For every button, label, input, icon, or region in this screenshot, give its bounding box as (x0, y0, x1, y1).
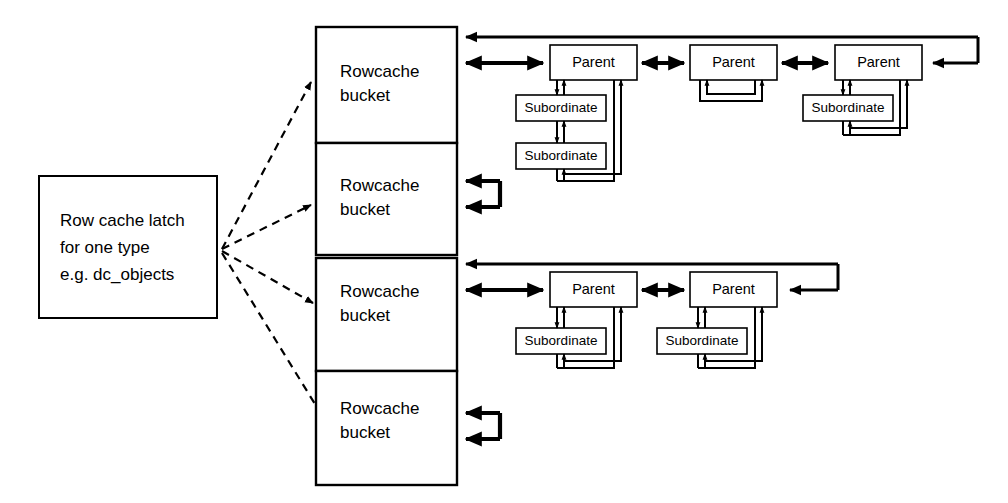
chain-top-parent-2[interactable]: Parent (690, 45, 777, 80)
bucket-1[interactable]: Rowcache bucket (316, 27, 457, 143)
latch-to-bucket-links (222, 82, 323, 417)
chain-top-parent-1-label: Parent (572, 54, 615, 70)
row-cache-latch-box: Row cache latch for one type e.g. dc_obj… (39, 176, 217, 318)
bucket-3-line-1: Rowcache (340, 282, 419, 301)
chain-bottom-parent-2[interactable]: Parent (690, 272, 777, 307)
chain-bottom-sub-2-label: Subordinate (666, 333, 739, 348)
chain-top-parent-3[interactable]: Parent (835, 45, 922, 80)
chain-bottom-sub-1-label: Subordinate (525, 333, 598, 348)
chain-bottom-parent-1-subordinate-1[interactable]: Subordinate (516, 328, 606, 354)
chain-top: Parent Subordinate Subordinate (466, 37, 978, 181)
bucket-4-self-loop (466, 413, 500, 439)
dashed-link-to-bucket-2 (222, 205, 311, 249)
chain-top-sub-1-label: Subordinate (525, 100, 598, 115)
bucket-1-line-2: bucket (340, 86, 390, 105)
chain-bottom-parent-2-label: Parent (712, 281, 755, 297)
dashed-link-to-bucket-3 (222, 251, 313, 303)
dashed-link-to-bucket-1 (222, 82, 311, 249)
rowcache-architecture-diagram: Row cache latch for one type e.g. dc_obj… (0, 0, 1008, 503)
latch-line-1: Row cache latch (60, 211, 185, 230)
bucket-4-line-1: Rowcache (340, 399, 419, 418)
bucket-2[interactable]: Rowcache bucket (316, 143, 457, 255)
bucket-2-line-2: bucket (340, 200, 390, 219)
bucket-4[interactable]: Rowcache bucket (316, 371, 457, 485)
chain-top-parent-2-label: Parent (712, 54, 755, 70)
chain-bottom: Parent Subordinate Parent Subordinate (466, 264, 838, 368)
chain-top-parent-1[interactable]: Parent (550, 45, 637, 80)
bucket-4-line-2: bucket (340, 423, 390, 442)
dashed-link-to-bucket-4 (222, 253, 323, 417)
latch-line-2: for one type (60, 238, 150, 257)
chain-top-sub-2-label: Subordinate (525, 148, 598, 163)
bucket-3-line-2: bucket (340, 306, 390, 325)
chain-top-parent-3-label: Parent (857, 54, 900, 70)
bucket-2-line-1: Rowcache (340, 176, 419, 195)
chain-top-parent-1-subordinate-1[interactable]: Subordinate (516, 95, 606, 121)
chain-bottom-parent-2-subordinate-1[interactable]: Subordinate (657, 328, 747, 354)
chain-top-parent-3-sub-label: Subordinate (812, 100, 885, 115)
chain-top-parent-3-subordinate-1[interactable]: Subordinate (803, 95, 893, 121)
chain-top-parent-1-subordinate-2[interactable]: Subordinate (516, 143, 606, 169)
latch-line-3: e.g. dc_objects (60, 265, 174, 284)
bucket-1-line-1: Rowcache (340, 62, 419, 81)
rowcache-bucket-column: Rowcache bucket Rowcache bucket Rowcache… (316, 27, 457, 485)
chain-bottom-parent-1-label: Parent (572, 281, 615, 297)
chain-bottom-parent-1[interactable]: Parent (550, 272, 637, 307)
bucket-2-self-loop (466, 181, 500, 207)
diagram-root: Row cache latch for one type e.g. dc_obj… (0, 0, 1008, 503)
bucket-3[interactable]: Rowcache bucket (316, 258, 457, 371)
